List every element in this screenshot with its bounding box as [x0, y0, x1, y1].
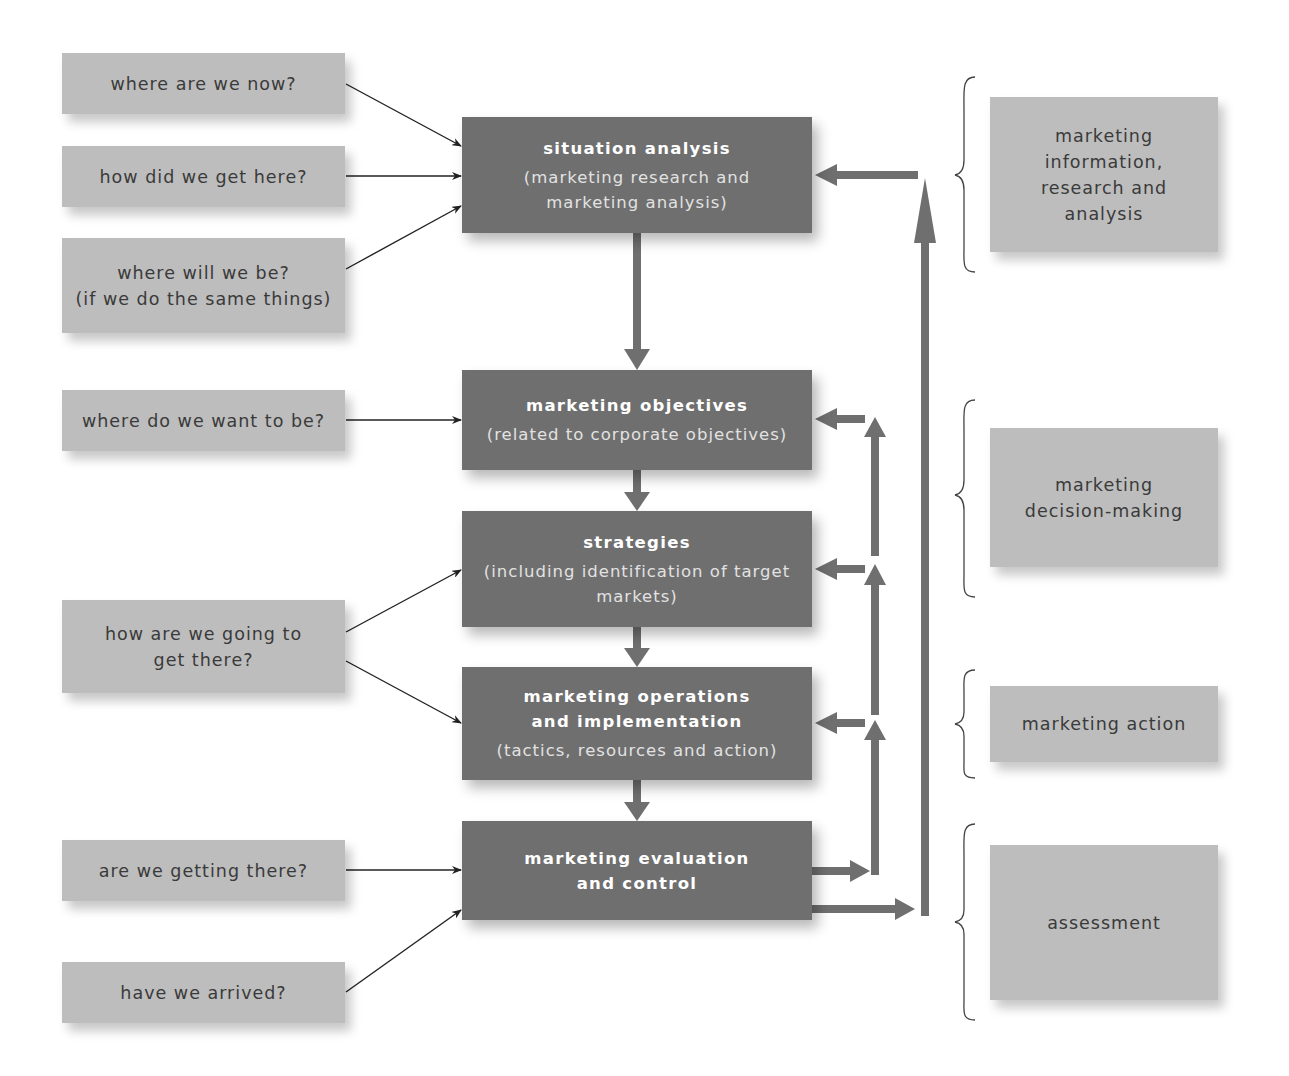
question-where-are-we-now: where are we now? — [62, 53, 345, 114]
stage-title: marketing operations and implementation — [523, 684, 750, 734]
stage-marketing-evaluation: marketing evaluation and control — [462, 821, 812, 920]
category-information-research: marketing information, research and anal… — [990, 97, 1218, 252]
thin-arrows — [346, 84, 461, 992]
question-have-we-arrived: have we arrived? — [62, 962, 345, 1023]
brace-action-icon — [955, 670, 975, 778]
stage-marketing-objectives: marketing objectives (related to corpora… — [462, 370, 812, 470]
brace-assessment-icon — [955, 824, 975, 1020]
stage-title: situation analysis — [543, 136, 731, 161]
arrow-q1 — [346, 84, 461, 146]
stage-subtitle: (related to corporate objectives) — [487, 422, 788, 447]
brace-decision-icon — [955, 400, 975, 597]
stage-subtitle: (including identification of target mark… — [484, 559, 790, 609]
question-where-do-we-want-to-be: where do we want to be? — [62, 390, 345, 451]
question-how-are-we-going: how are we going to get there? — [62, 600, 345, 693]
category-decision-making: marketing decision-making — [990, 428, 1218, 567]
arrow-q5b — [346, 661, 461, 723]
stage-subtitle: (marketing research and marketing analys… — [524, 165, 750, 215]
feedback-arrows — [812, 164, 936, 920]
category-marketing-action: marketing action — [990, 686, 1218, 762]
stage-title: marketing objectives — [526, 393, 748, 418]
stage-situation-analysis: situation analysis (marketing research a… — [462, 117, 812, 233]
question-where-will-we-be: where will we be? (if we do the same thi… — [62, 238, 345, 333]
stage-marketing-operations: marketing operations and implementation … — [462, 667, 812, 780]
question-are-we-getting-there: are we getting there? — [62, 840, 345, 901]
arrow-q3 — [346, 206, 461, 269]
brace-info-icon — [955, 77, 975, 272]
stage-title: strategies — [583, 530, 691, 555]
category-assessment: assessment — [990, 845, 1218, 1000]
braces — [955, 77, 975, 1020]
arrow-q7 — [346, 910, 461, 992]
question-how-did-we-get-here: how did we get here? — [62, 146, 345, 207]
arrow-q5a — [346, 570, 461, 632]
stage-subtitle: (tactics, resources and action) — [496, 738, 777, 763]
stage-title: marketing evaluation and control — [524, 846, 749, 896]
stage-strategies: strategies (including identification of … — [462, 511, 812, 627]
